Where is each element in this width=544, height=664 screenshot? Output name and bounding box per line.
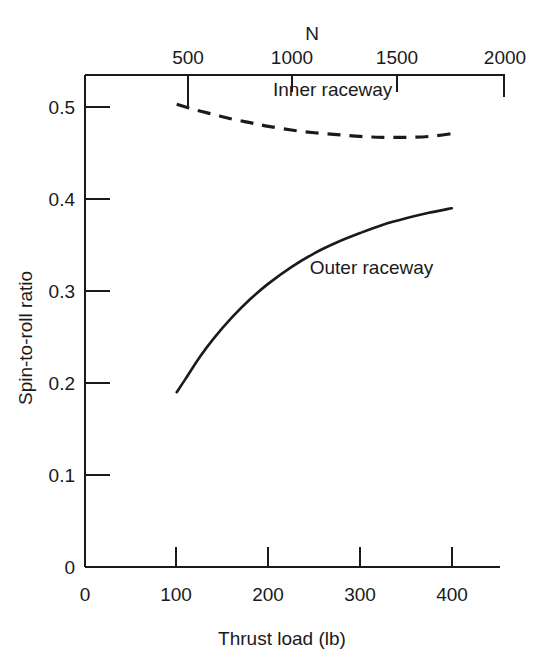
y-axis-tick-label-0-2: 0.2	[49, 373, 75, 394]
x-axis-tick-label-400: 400	[436, 584, 468, 605]
x-axis-tick-label-0: 0	[80, 584, 91, 605]
x-axis	[85, 547, 500, 567]
y-axis-tick-label-0-3: 0.3	[49, 281, 75, 302]
series-line-inner-raceway	[177, 104, 457, 137]
x-axis-title: Thrust load (lb)	[218, 628, 346, 649]
y-axis-tick-label-0-1: 0.1	[49, 465, 75, 486]
spin-to-roll-ratio-chart: N 500 1000 1500 2000 0.5 0.4 0.3 0.2 0.1…	[0, 0, 544, 664]
y-axis-tick-label-0-5: 0.5	[49, 97, 75, 118]
y-axis-tick-label-0-4: 0.4	[49, 189, 76, 210]
x-axis-tick-label-300: 300	[344, 584, 376, 605]
series-label-inner-raceway: Inner raceway	[273, 79, 393, 100]
chart-container: N 500 1000 1500 2000 0.5 0.4 0.3 0.2 0.1…	[0, 0, 544, 664]
top-axis-tick-label-1500: 1500	[376, 47, 418, 68]
plot-area	[177, 104, 457, 392]
series-label-outer-raceway: Outer raceway	[310, 257, 434, 278]
y-axis-tick-label-0: 0	[64, 557, 75, 578]
x-axis-tick-label-200: 200	[252, 584, 284, 605]
top-axis-title: N	[305, 23, 319, 44]
y-axis	[85, 75, 110, 567]
top-axis-tick-label-2000: 2000	[484, 47, 526, 68]
top-axis-tick-label-1000: 1000	[271, 47, 313, 68]
series-line-outer-raceway	[177, 208, 452, 392]
y-axis-title: Spin-to-roll ratio	[15, 271, 36, 405]
top-axis-tick-label-500: 500	[172, 47, 204, 68]
x-axis-tick-label-100: 100	[160, 584, 192, 605]
